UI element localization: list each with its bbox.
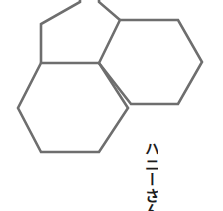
hex-top-left-partial	[41, 0, 80, 63]
hex-right	[99, 20, 202, 104]
hex-top-center-partial	[99, 0, 120, 20]
vertical-caption-text: ハニーさん	[136, 141, 158, 211]
illustration-canvas: ハニーさん	[0, 0, 223, 211]
hex-bottom-left	[18, 63, 128, 152]
hexagon-strokes	[18, 0, 202, 152]
honeycomb-hexagon-pattern	[0, 0, 223, 211]
